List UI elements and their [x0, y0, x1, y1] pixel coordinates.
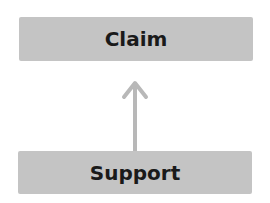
- support-label: Support: [90, 161, 180, 185]
- claim-label: Claim: [105, 27, 168, 51]
- claim-node: Claim: [19, 17, 253, 61]
- support-node: Support: [18, 151, 252, 194]
